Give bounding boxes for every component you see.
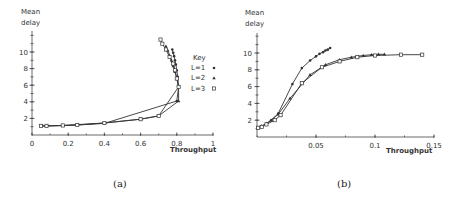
x-tick-label: 0.2 xyxy=(63,140,74,148)
chart-a-ylabel-line1: Mean xyxy=(21,8,40,16)
x-tick-label: 0.15 xyxy=(426,142,442,150)
legend-marker-square-open xyxy=(212,87,215,90)
data-point-marker xyxy=(168,55,171,58)
chart-b-ylabel-line2: delay xyxy=(245,20,264,28)
data-point-marker xyxy=(399,53,402,56)
data-point-marker xyxy=(171,48,174,51)
y-tick-label: 6 xyxy=(24,82,29,90)
chart-a-series xyxy=(39,38,180,128)
data-point-marker xyxy=(173,55,176,58)
data-point-marker xyxy=(318,53,321,56)
data-point-marker xyxy=(338,60,341,63)
x-tick-label: 1 xyxy=(211,140,215,148)
data-point-marker xyxy=(172,62,175,65)
y-tick-label: 2 xyxy=(248,117,252,125)
data-point-marker xyxy=(177,85,180,88)
data-point-marker xyxy=(421,53,424,56)
x-tick-label: 0.8 xyxy=(171,140,182,148)
data-point-marker xyxy=(164,48,167,51)
data-point-marker xyxy=(329,47,332,50)
chart-a-legend-title: Key xyxy=(193,54,206,62)
data-point-marker xyxy=(161,42,164,45)
data-point-marker xyxy=(159,38,162,41)
series-l1 xyxy=(257,47,332,129)
chart-b-ylabel-line1: Mean xyxy=(245,9,264,17)
data-point-marker xyxy=(61,124,64,127)
data-point-marker xyxy=(273,119,276,122)
y-tick-label: 8 xyxy=(248,66,252,74)
y-tick-label: 10 xyxy=(243,50,252,58)
figure: Mean delay Throughput Key L=1 L=2 L=3 (a… xyxy=(0,0,461,203)
x-tick-label: 0.05 xyxy=(308,142,324,150)
chart-a-axes: 24681000.20.40.60.81 xyxy=(19,31,215,148)
y-tick-label: 10 xyxy=(19,49,28,57)
data-point-marker xyxy=(373,54,376,57)
chart-a-legend-l3: L=3 xyxy=(191,85,205,93)
data-point-marker xyxy=(315,55,318,58)
data-point-marker xyxy=(103,121,106,124)
data-point-marker xyxy=(356,56,359,59)
chart-a: Mean delay Throughput Key L=1 L=2 L=3 (a… xyxy=(19,8,217,189)
data-point-marker xyxy=(257,126,260,129)
data-point-marker xyxy=(309,59,312,62)
data-point-marker xyxy=(291,83,294,86)
chart-b-series xyxy=(256,47,423,130)
data-point-marker xyxy=(173,69,176,72)
y-tick-label: 8 xyxy=(24,65,28,73)
x-tick-label: 0.6 xyxy=(135,140,147,148)
data-point-marker xyxy=(175,77,178,80)
data-point-marker xyxy=(76,123,79,126)
y-tick-label: 2 xyxy=(24,115,28,123)
chart-b-axes: 2468100.050.10.15 xyxy=(243,33,442,150)
data-point-marker xyxy=(279,114,282,117)
y-tick-label: 4 xyxy=(248,100,253,108)
x-tick-label: 0.4 xyxy=(99,140,111,148)
data-point-marker xyxy=(174,59,177,62)
chart-a-caption: (a) xyxy=(113,178,127,189)
data-point-marker xyxy=(322,51,325,54)
data-point-marker xyxy=(324,49,327,52)
data-point-marker xyxy=(301,67,304,70)
series-l3 xyxy=(39,38,180,128)
chart-a-legend-l2: L=2 xyxy=(191,74,205,82)
data-point-marker xyxy=(327,48,330,51)
data-point-marker xyxy=(139,118,142,121)
data-point-marker xyxy=(172,52,175,55)
data-point-marker xyxy=(260,125,263,128)
series-l2 xyxy=(256,52,386,129)
legend-marker-circle-filled xyxy=(213,67,216,70)
data-point-marker xyxy=(39,124,42,127)
data-point-marker xyxy=(320,66,323,69)
data-point-marker xyxy=(157,114,160,117)
chart-a-ylabel-line2: delay xyxy=(21,19,40,27)
y-tick-label: 4 xyxy=(24,98,29,106)
data-point-marker xyxy=(300,82,303,85)
chart-a-legend-l1: L=1 xyxy=(191,64,205,72)
x-tick-label: 0.1 xyxy=(369,142,380,150)
x-tick-label: 0 xyxy=(30,140,34,148)
legend-marker-triangle xyxy=(212,76,215,79)
chart-b: Mean delay Throughput (b) 2468100.050.10… xyxy=(243,9,442,189)
y-tick-label: 6 xyxy=(248,83,253,91)
series-l3 xyxy=(257,53,424,129)
chart-b-caption: (b) xyxy=(337,178,351,189)
chart-a-legend-markers xyxy=(212,67,215,90)
data-point-marker xyxy=(265,123,268,126)
data-point-marker xyxy=(45,124,48,127)
